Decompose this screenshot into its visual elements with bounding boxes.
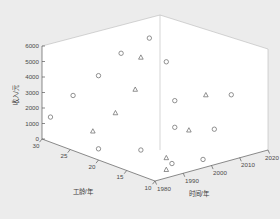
y-tick-15	[124, 171, 127, 174]
z-tick-label-4000: 4000	[25, 73, 39, 80]
y-tick-label-10: 10	[145, 184, 152, 191]
y-tick-label-15: 15	[117, 173, 124, 180]
z-tick-label-5000: 5000	[25, 58, 39, 65]
scatter-plot-3d: 6000 5000 4000 3000 2000 1000 0 收入/元 30 …	[0, 0, 280, 219]
z-tick-label-2000: 2000	[25, 104, 39, 111]
x-tick-label-2000: 2000	[213, 169, 227, 176]
y-axis-title: 工龄/年	[73, 187, 94, 196]
plot-pane-background	[42, 15, 268, 181]
y-tick-25	[68, 150, 71, 153]
y-tick-label-30: 30	[33, 142, 40, 149]
z-axis-title: 收入/元	[11, 84, 20, 105]
z-axis-tick-labels: 6000 5000 4000 3000 2000 1000 0	[25, 42, 39, 142]
y-tick-label-25: 25	[61, 152, 68, 159]
x-tick-label-1990: 1990	[185, 177, 199, 184]
x-tick-label-2010: 2010	[241, 161, 255, 168]
x-tick-label-2020: 2020	[265, 154, 279, 161]
figure-canvas: 6000 5000 4000 3000 2000 1000 0 收入/元 30 …	[0, 0, 280, 219]
y-tick-30	[40, 139, 43, 142]
z-tick-label-1000: 1000	[25, 120, 39, 127]
z-tick-label-3000: 3000	[25, 89, 39, 96]
x-axis-title: 时间/年	[189, 189, 210, 198]
y-tick-10	[153, 181, 156, 184]
x-tick-label-1980: 1980	[157, 185, 171, 192]
y-tick-label-20: 20	[89, 163, 96, 170]
z-tick-label-6000: 6000	[25, 42, 39, 49]
y-tick-20	[96, 160, 99, 163]
